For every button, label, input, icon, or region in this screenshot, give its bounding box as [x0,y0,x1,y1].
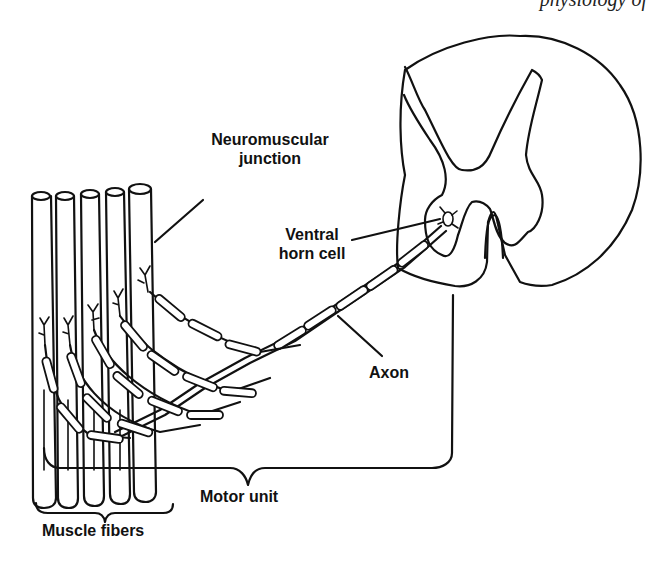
axon-pointer-line [338,316,382,356]
spinal-cord-cross-section [397,36,641,287]
label-nmj-line2: junction [200,149,340,168]
label-nmj-line1: Neuromuscular [200,130,340,149]
label-vhc-line2: horn cell [262,244,362,263]
nerve-branches [41,292,300,443]
diagram-drawing [0,0,669,564]
muscle-fibers-bracket [36,503,173,522]
ventral-horn-cell-icon [438,207,458,228]
label-ventral-horn-cell: Ventral horn cell [262,225,362,263]
nmj-pointer-line [155,200,203,242]
label-neuromuscular-junction: Neuromuscular junction [200,130,340,168]
running-header: physiology of [540,0,647,11]
motor-unit-diagram: physiology of [0,0,669,564]
label-axon: Axon [369,363,409,382]
label-vhc-line1: Ventral [262,225,362,244]
label-motor-unit: Motor unit [200,487,278,506]
label-muscle-fibers: Muscle fibers [42,521,144,540]
